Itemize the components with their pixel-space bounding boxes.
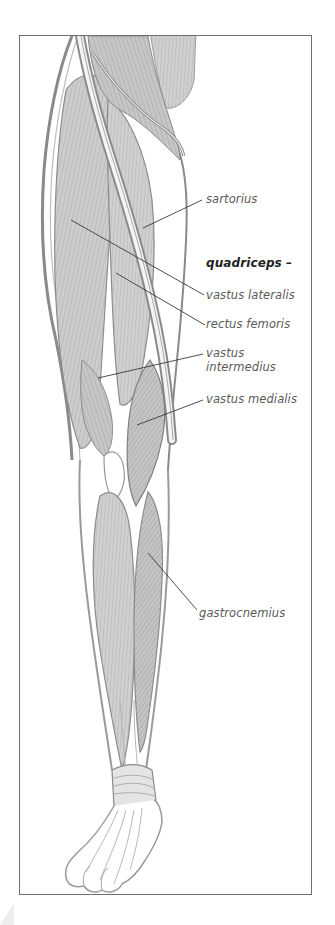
rectus-femoris-muscle: [107, 100, 154, 405]
label-vastus-intermedius-line1: vastus: [206, 346, 244, 360]
label-quadriceps: quadriceps –: [206, 256, 292, 270]
label-rectus-femoris: rectus femoris: [206, 317, 290, 331]
tibialis-anterior-muscle: [93, 493, 135, 770]
label-vastus-medialis: vastus medialis: [206, 392, 297, 406]
label-vastus-lateralis: vastus lateralis: [206, 288, 295, 302]
label-sartorius: sartorius: [206, 192, 257, 206]
leg-illustration: [0, 0, 335, 925]
gastrocnemius-muscle: [134, 492, 162, 752]
label-vastus-intermedius-line2: intermedius: [206, 360, 276, 374]
label-gastrocnemius: gastrocnemius: [199, 606, 285, 620]
